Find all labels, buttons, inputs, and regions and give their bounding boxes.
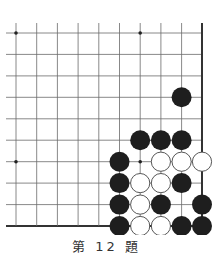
star-point xyxy=(138,160,142,164)
black-stone xyxy=(110,152,130,172)
black-stone xyxy=(151,130,171,150)
go-board xyxy=(0,0,213,235)
white-stone xyxy=(131,174,150,193)
black-stone xyxy=(172,87,192,107)
board-grid xyxy=(6,23,202,226)
white-stone xyxy=(151,216,170,235)
black-stone xyxy=(110,195,130,215)
black-stone xyxy=(192,195,212,215)
white-stone xyxy=(172,152,191,171)
problem-caption: 第 12 題 xyxy=(0,236,213,255)
black-stone xyxy=(130,130,150,150)
black-stone xyxy=(172,173,192,193)
star-point xyxy=(138,31,142,35)
black-stone xyxy=(151,195,171,215)
black-stone xyxy=(172,216,192,235)
white-stone xyxy=(151,174,170,193)
black-stone xyxy=(172,130,192,150)
white-stone xyxy=(192,152,211,171)
white-stone xyxy=(131,195,150,214)
star-point xyxy=(14,31,18,35)
white-stone xyxy=(131,216,150,235)
white-stone xyxy=(151,152,170,171)
black-stone xyxy=(110,216,130,235)
black-stone xyxy=(110,173,130,193)
star-point xyxy=(14,160,18,164)
black-stone xyxy=(192,216,212,235)
